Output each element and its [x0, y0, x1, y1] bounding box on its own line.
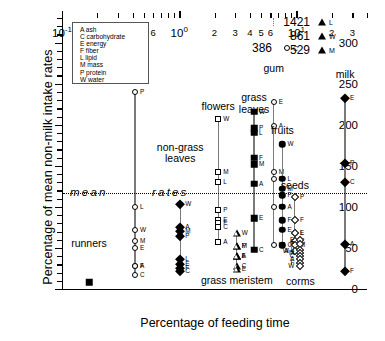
- data-point-meat-C[interactable]: [132, 272, 138, 278]
- data-point-grass-leaves-E[interactable]: [251, 215, 258, 222]
- data-point-label: A: [223, 239, 227, 246]
- x-tick-minor: [161, 13, 162, 18]
- data-point-label: M: [259, 161, 264, 168]
- y-axis-title: Percentage of mean non-milk intake rates: [41, 27, 55, 307]
- x-tick-minor-label: 3: [350, 27, 355, 38]
- x-tick-minor-label: 3: [232, 27, 237, 38]
- offscale-value-W: 861: [290, 29, 310, 43]
- data-point-grass-leaves-C[interactable]: [251, 246, 258, 253]
- data-point-milk-F[interactable]: [340, 266, 349, 275]
- data-point-seeds-F[interactable]: [291, 216, 299, 224]
- x-tick-label: 10-1: [52, 25, 72, 39]
- offscale-marker-L: [318, 19, 326, 26]
- data-point-flowers-C[interactable]: [215, 224, 221, 230]
- y-tick-minor: [57, 256, 62, 257]
- y-tick: [55, 166, 62, 167]
- legend-box: A ashC carbohydrateE energyF fiberL lipi…: [72, 22, 149, 84]
- data-point-label: L: [259, 130, 263, 137]
- y-tick-minor: [57, 92, 62, 93]
- data-point-flowers-P[interactable]: [215, 207, 221, 213]
- data-point-grass-leaves-L[interactable]: [251, 130, 258, 137]
- data-point-label: E: [140, 245, 144, 252]
- data-point-label: P: [300, 194, 304, 201]
- x-tick-minor-label: 2: [212, 27, 217, 38]
- data-point-label: L: [223, 179, 227, 186]
- data-point-label: M: [223, 169, 228, 176]
- y-tick-minor: [57, 59, 62, 60]
- data-point-fruits-A[interactable]: [279, 204, 286, 211]
- chart-root: Percentage of mean non-milk intake rates…: [0, 0, 385, 341]
- y-tick: [55, 84, 62, 85]
- y-tick-minor: [57, 108, 62, 109]
- data-point-grass-meristem-W[interactable]: [233, 230, 241, 237]
- mean-label: mean: [70, 186, 108, 198]
- series-label-gum: gum: [263, 63, 283, 75]
- data-point-non-grass-leaves-P[interactable]: [176, 232, 185, 241]
- data-point-label: L: [140, 204, 144, 211]
- data-point-label: E: [259, 215, 263, 222]
- series-label-seeds: seeds: [281, 180, 309, 192]
- legend-entry-E: E energy: [80, 40, 148, 47]
- y-tick-label: 200: [339, 119, 358, 131]
- data-point-gum-L[interactable]: [271, 204, 277, 210]
- x-tick-minor: [270, 13, 271, 18]
- data-point-flowers-A[interactable]: [215, 239, 221, 245]
- data-point-gum-E[interactable]: [271, 99, 277, 105]
- data-point-gum-M[interactable]: [271, 169, 277, 175]
- data-point-gum-F[interactable]: [271, 176, 277, 182]
- data-point-milk-C[interactable]: [340, 178, 349, 187]
- data-point-gum-W[interactable]: [271, 242, 277, 248]
- data-point-runners-x[interactable]: [86, 279, 93, 286]
- legend-entry-M: M mass: [80, 61, 148, 68]
- data-point-label: W: [287, 141, 293, 148]
- data-point-non-grass-leaves-W[interactable]: [176, 199, 185, 208]
- x-tick-minor: [174, 13, 175, 18]
- data-point-seeds-P[interactable]: [291, 193, 299, 201]
- data-point-grass-meristem-P[interactable]: [233, 243, 241, 250]
- data-point-grass-leaves-F[interactable]: [251, 154, 258, 161]
- y-tick: [55, 248, 62, 249]
- data-point-meat-W[interactable]: [132, 227, 138, 233]
- offscale-marker-C: [284, 45, 290, 51]
- x-axis-line: [62, 289, 367, 290]
- x-tick-minor: [97, 13, 98, 18]
- y-tick-minor: [57, 133, 62, 134]
- y-tick-minor: [57, 281, 62, 282]
- data-point-milk-E[interactable]: [340, 94, 349, 103]
- data-point-label: F: [350, 268, 354, 275]
- data-point-label: W: [283, 248, 289, 255]
- data-point-fruits-W[interactable]: [279, 141, 286, 148]
- series-label-grass-leaves: grassleaves: [239, 92, 269, 115]
- data-point-label: P: [140, 89, 144, 96]
- x-tick-minor: [118, 13, 119, 18]
- data-point-meat-P[interactable]: [132, 89, 138, 95]
- data-point-fruits-F[interactable]: [279, 217, 286, 224]
- y-tick-minor: [57, 117, 62, 118]
- data-point-grass-leaves-A[interactable]: [251, 181, 258, 188]
- data-point-meat-A[interactable]: [132, 263, 138, 269]
- data-point-flowers-M[interactable]: [215, 169, 221, 175]
- y-tick: [55, 289, 62, 290]
- legend-entry-W: W water: [80, 76, 148, 83]
- legend-entry-C: C carbohydrate: [80, 33, 148, 40]
- data-point-grass-leaves-M[interactable]: [251, 161, 258, 168]
- y-tick-minor: [57, 51, 62, 52]
- data-point-grass-meristem-F[interactable]: [233, 253, 241, 260]
- data-point-fruits-E[interactable]: [279, 227, 286, 234]
- data-point-label: W: [185, 200, 191, 207]
- data-point-meat-E[interactable]: [132, 245, 138, 251]
- data-point-label: P: [350, 159, 354, 166]
- data-point-flowers-L[interactable]: [215, 179, 221, 185]
- x-tick-minor: [261, 13, 262, 18]
- data-point-grass-meristem-E[interactable]: [233, 266, 241, 273]
- x-tick-minor-label: 4: [247, 27, 252, 38]
- data-point-label: E: [242, 266, 246, 273]
- data-point-meat-L[interactable]: [132, 204, 138, 210]
- mean-reference-line: [63, 193, 367, 194]
- data-point-meat-M[interactable]: [132, 238, 138, 244]
- y-tick-minor: [57, 199, 62, 200]
- legend-entry-A: A ash: [80, 26, 148, 33]
- data-point-flowers-W[interactable]: [215, 116, 221, 122]
- data-point-label: C: [140, 272, 145, 279]
- x-tick-minor: [133, 13, 134, 18]
